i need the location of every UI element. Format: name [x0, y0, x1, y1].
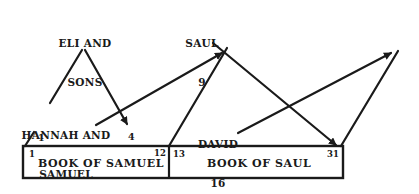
david-line2: 16 [196, 177, 240, 190]
book-of-samuel-title: BOOK OF SAMUEL [38, 157, 164, 170]
saul-end-chapter: 31 [327, 150, 339, 159]
eli-line2: SONS [52, 76, 118, 89]
samuel-start-chapter: 1 [29, 150, 35, 159]
david-16-label: DAVID 16 [196, 112, 240, 194]
book-of-saul-title: BOOK OF SAUL [207, 157, 311, 170]
david-arrow [238, 53, 391, 133]
samuel-end-chapter: 12 [154, 149, 166, 158]
eli-arrow-end-marker: 4 [128, 132, 135, 142]
eli-line1: ELI AND [52, 37, 118, 50]
eli-and-sons-label: ELI AND SONS [52, 11, 118, 102]
saul-line1: SAUL [182, 37, 222, 50]
david-line1: DAVID [196, 138, 240, 151]
saul-start-chapter: 13 [173, 150, 185, 159]
hannah-line1: HANNAH AND [20, 129, 112, 142]
hannah-start-marker: 1 [38, 133, 45, 143]
saul-9-label: SAUL 9 [182, 11, 222, 102]
saul-line2: 9 [182, 76, 222, 89]
